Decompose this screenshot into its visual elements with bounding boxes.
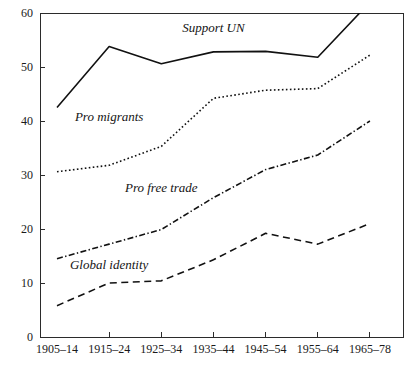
series-labels: Support UNPro migrantsPro free tradeGlob…: [70, 20, 246, 272]
y-tick-label: 0: [27, 330, 33, 344]
chart-axes: [40, 13, 403, 337]
series-label-pro-free-trade: Pro free trade: [124, 180, 198, 195]
series-label-pro-migrants: Pro migrants: [74, 109, 144, 124]
y-tick-label: 50: [21, 60, 33, 74]
x-tick-label: 1945–54: [245, 342, 287, 356]
y-tick-label: 40: [21, 114, 33, 128]
x-tick-label: 1935–44: [192, 342, 234, 356]
x-tick-label: 1955–64: [297, 342, 339, 356]
x-tick-label: 1905–14: [36, 342, 78, 356]
y-tick-label: 10: [21, 276, 33, 290]
series-label-global-identity: Global identity: [70, 257, 149, 272]
y-tick-label: 60: [21, 6, 33, 20]
line-chart: 0102030405060 1905–141915–241925–341935–…: [0, 0, 418, 376]
y-axis-ticks: 0102030405060: [21, 6, 45, 344]
x-tick-label: 1915–24: [88, 342, 130, 356]
x-axis-ticks: 1905–141915–241925–341935–441945–541955–…: [36, 332, 391, 356]
plot-frame: [40, 13, 403, 337]
x-tick-label: 1925–34: [140, 342, 182, 356]
y-tick-label: 20: [21, 222, 33, 236]
y-tick-label: 30: [21, 168, 33, 182]
chart-container: 0102030405060 1905–141915–241925–341935–…: [0, 0, 418, 376]
series-line-pro-free-trade: [57, 121, 370, 259]
x-tick-label: 1965–78: [349, 342, 391, 356]
series-line-support-un: [57, 2, 370, 107]
series-label-support-un: Support UN: [182, 20, 246, 35]
